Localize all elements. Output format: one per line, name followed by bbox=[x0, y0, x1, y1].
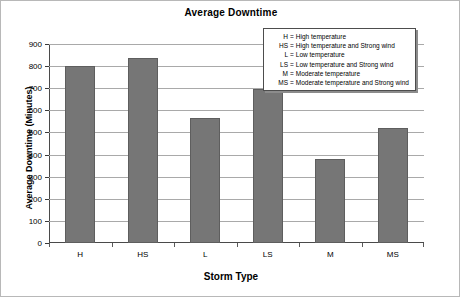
y-tick-label: 900 bbox=[29, 40, 42, 49]
bar-slot: H bbox=[49, 44, 112, 243]
legend-description: High temperature bbox=[296, 32, 409, 41]
legend-description: Low temperature bbox=[296, 50, 409, 59]
legend-abbreviation: MS bbox=[268, 78, 288, 87]
x-tick-mark bbox=[423, 243, 424, 247]
legend-item: HS=High temperature and Strong wind bbox=[268, 41, 409, 50]
bar-l[interactable] bbox=[190, 118, 220, 243]
x-tick-mark bbox=[49, 243, 50, 247]
bar-m[interactable] bbox=[315, 159, 345, 243]
y-tick-label: 100 bbox=[29, 216, 42, 225]
legend-description: Moderate temperature and Strong wind bbox=[296, 78, 409, 87]
x-tick-label: LS bbox=[237, 250, 300, 259]
legend-abbreviation: LS bbox=[268, 60, 288, 69]
x-tick-mark bbox=[112, 243, 113, 247]
legend-description: High temperature and Strong wind bbox=[296, 41, 409, 50]
legend-equals-sign: = bbox=[288, 32, 296, 41]
legend-description: Moderate temperature bbox=[296, 69, 409, 78]
legend-abbreviation: M bbox=[268, 69, 288, 78]
legend-equals-sign: = bbox=[288, 41, 296, 50]
legend-equals-sign: = bbox=[288, 60, 296, 69]
x-tick-label: MS bbox=[362, 250, 425, 259]
x-tick-label: L bbox=[174, 250, 237, 259]
x-tick-mark bbox=[299, 243, 300, 247]
y-tick-label: 400 bbox=[29, 150, 42, 159]
bar-ms[interactable] bbox=[378, 128, 408, 243]
bar-hs[interactable] bbox=[128, 58, 158, 243]
x-tick-mark bbox=[237, 243, 238, 247]
legend-abbreviation: HS bbox=[268, 41, 288, 50]
y-tick-label: 200 bbox=[29, 194, 42, 203]
legend-abbreviation: H bbox=[268, 32, 288, 41]
legend-item: H=High temperature bbox=[268, 32, 409, 41]
x-axis-label: Storm Type bbox=[1, 271, 460, 282]
page-title: Average Downtime bbox=[1, 7, 460, 18]
legend: H=High temperatureHS=High temperature an… bbox=[263, 28, 416, 91]
bar-slot: L bbox=[174, 44, 237, 243]
x-tick-label: M bbox=[299, 250, 362, 259]
legend-abbreviation: L bbox=[268, 50, 288, 59]
chart-page: Average Downtime Average Downtime (Minut… bbox=[0, 0, 460, 297]
bar-slot: HS bbox=[112, 44, 175, 243]
legend-item: M=Moderate temperature bbox=[268, 69, 409, 78]
legend-item: MS=Moderate temperature and Strong wind bbox=[268, 78, 409, 87]
y-tick-label: 600 bbox=[29, 106, 42, 115]
legend-item: LS=Low temperature and Strong wind bbox=[268, 60, 409, 69]
y-tick-label: 800 bbox=[29, 62, 42, 71]
y-tick-label: 0 bbox=[38, 239, 42, 248]
bar-ls[interactable] bbox=[253, 89, 283, 243]
legend-equals-sign: = bbox=[288, 50, 296, 59]
legend-equals-sign: = bbox=[288, 69, 296, 78]
x-tick-mark bbox=[362, 243, 363, 247]
x-tick-label: HS bbox=[112, 250, 175, 259]
y-tick-label: 300 bbox=[29, 172, 42, 181]
legend-description: Low temperature and Strong wind bbox=[296, 60, 409, 69]
bar-h[interactable] bbox=[65, 66, 95, 243]
x-tick-mark bbox=[174, 243, 175, 247]
x-tick-label: H bbox=[49, 250, 112, 259]
legend-item: L=Low temperature bbox=[268, 50, 409, 59]
y-tick-label: 700 bbox=[29, 84, 42, 93]
y-tick-label: 500 bbox=[29, 128, 42, 137]
legend-equals-sign: = bbox=[288, 78, 296, 87]
